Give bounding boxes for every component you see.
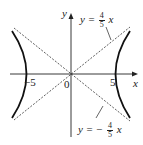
asym-pos-fraction: 45	[99, 12, 105, 29]
asym-neg-prefix: y = −	[78, 123, 103, 135]
tick-label-5: 5	[110, 77, 116, 88]
asym-neg-var: x	[117, 123, 122, 135]
hyperbola-right-branch	[116, 31, 131, 118]
asym-pos-den: 5	[99, 21, 105, 29]
asymptote-negative-label: y = − 45 x	[78, 122, 122, 139]
tick-label-neg5: −5	[24, 77, 36, 88]
leader-negative	[96, 106, 103, 118]
tick-label-0: 0	[64, 79, 70, 90]
asym-neg-den: 5	[107, 131, 113, 139]
asymptote-negative	[14, 28, 130, 121]
asymptote-positive-label: y = 45 x	[80, 12, 113, 29]
hyperbola-left-branch	[12, 31, 27, 118]
x-axis-arrow-icon	[132, 72, 138, 77]
y-axis-arrow-icon	[69, 13, 74, 19]
y-axis-label: y	[62, 8, 67, 19]
asymptote-positive	[14, 27, 130, 120]
asym-pos-prefix: y =	[80, 13, 95, 25]
asym-pos-var: x	[109, 13, 114, 25]
x-axis-label: x	[133, 78, 138, 89]
asym-neg-fraction: 45	[107, 122, 113, 139]
